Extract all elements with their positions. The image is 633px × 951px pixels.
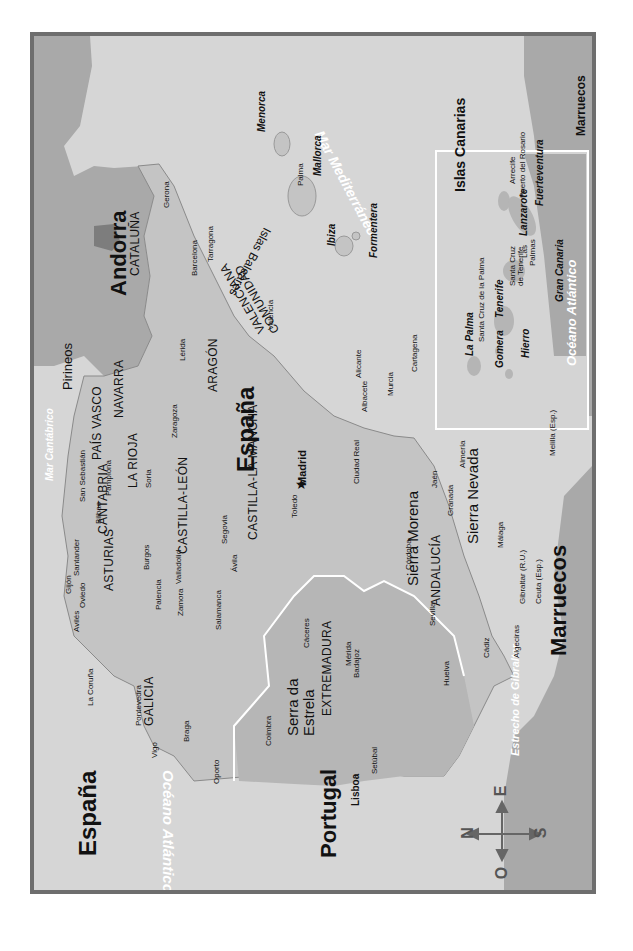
island-label-mallorca: Mallorca — [312, 135, 323, 176]
region-label-asturias: ASTURIAS — [102, 529, 116, 591]
city-label-tarragona: Tarragona — [206, 226, 215, 262]
city-label-puerto-rosario: Puerto del Rosario — [518, 132, 527, 198]
hierro-island — [505, 369, 513, 379]
city-label-granada: Granada — [446, 485, 455, 516]
city-label-zaragoza: Zaragoza — [170, 404, 179, 438]
formentera-island — [352, 232, 360, 240]
city-label-pamplona: Pamplona — [104, 460, 113, 496]
mountain-label-serra-da: Serra da — [284, 678, 301, 736]
inset-label-marruecos: Marruecos — [574, 75, 588, 136]
region-label-extremadura: EXTREMADURA — [320, 621, 334, 716]
sea-label-gibraltar: Estrecho de Gibraltar — [509, 644, 521, 756]
compass-e-label: E — [492, 786, 510, 797]
city-label-segovia: Segovia — [220, 515, 229, 544]
city-label-gijon: Gijón — [64, 575, 73, 594]
city-label-toledo: Toledo — [290, 494, 299, 518]
city-label-setubal: Setúbal — [370, 747, 379, 774]
city-label-caceres: Cáceres — [302, 618, 311, 648]
compass-s-label: S — [532, 828, 550, 839]
city-label-santa-cruz-palma: Santa Cruz de la Palma — [477, 258, 486, 343]
sea-label-atlantico: Océano Atlántico — [160, 770, 177, 893]
island-label-formentera: Formentera — [368, 203, 379, 258]
region-label-galicia: GALICIA — [142, 677, 156, 726]
city-label-melilla: Melilla (Esp.) — [548, 410, 557, 456]
city-label-gibraltar: Gibraltar (R.U.) — [518, 550, 527, 604]
city-label-ciudad-real: Ciudad Real — [352, 440, 361, 484]
island-label-tenerife: Tenerife — [494, 279, 505, 318]
sea-label-cantabrico: Mar Cantábrico — [44, 408, 55, 481]
city-label-cadiz: Cádiz — [482, 638, 491, 658]
city-label-cartagena: Cartagena — [410, 335, 419, 372]
country-label-espana-corner: España — [74, 771, 102, 856]
mountain-label-estrela: Estrela — [300, 689, 317, 736]
island-label-la-palma: La Palma — [464, 312, 475, 356]
country-label-portugal: Portugal — [316, 769, 342, 858]
city-label-oporto: Oporto — [212, 760, 221, 784]
city-label-cordoba: Córdoba — [404, 539, 413, 570]
city-label-albacete: Albacete — [360, 381, 369, 412]
capital-star-icon: ★ — [295, 476, 308, 492]
city-label-almeria: Almería — [458, 440, 467, 468]
city-label-aviles: Avilés — [72, 611, 81, 632]
city-label-la-coruna: La Coruña — [86, 669, 95, 706]
country-label-marruecos: Marruecos — [546, 545, 572, 656]
island-label-hierro: Hierro — [520, 329, 531, 358]
region-label-navarra: NAVARRA — [112, 360, 126, 418]
city-label-ceuta: Ceuta (Esp.) — [534, 559, 543, 604]
city-label-algeciras: Algeciras — [512, 625, 521, 658]
compass-o-label: O — [493, 867, 511, 879]
city-label-lisboa: Lisboa — [350, 774, 361, 806]
city-label-salamanca: Salamanca — [214, 590, 223, 630]
region-label-la-rioja: LA RIOJA — [126, 433, 140, 488]
lanzarote-island — [498, 191, 510, 211]
city-label-lerida: Lérida — [178, 339, 187, 361]
city-label-huelva: Huelva — [442, 661, 451, 686]
city-label-gerona: Gerona — [162, 181, 171, 208]
city-label-coimbra: Coimbra — [264, 716, 273, 746]
ibiza-island — [335, 236, 353, 256]
city-label-sevilla: Sevilla — [428, 602, 437, 626]
city-label-oviedo: Oviedo — [78, 583, 87, 608]
region-label-pais-vasco: PAÍS VASCO — [90, 386, 104, 460]
region-label-castilla-leon: CASTILLA-LEÓN — [176, 457, 190, 554]
island-label-fuerteventura: Fuerteventura — [534, 139, 545, 206]
city-label-valladolid: Valladolid — [174, 550, 183, 584]
city-label-soria: Soria — [144, 469, 153, 488]
compass-n-label: N — [459, 827, 477, 839]
island-label-menorca: Menorca — [256, 91, 267, 132]
city-label-santander: Santander — [72, 539, 81, 576]
city-label-malaga: Málaga — [496, 522, 505, 548]
france-land — [34, 36, 154, 376]
mountain-label-pirineos: Pirineos — [60, 343, 75, 390]
city-label-braga: Braga — [182, 721, 191, 742]
city-label-alicante: Alicante — [354, 350, 363, 378]
city-label-zamora: Zamora — [176, 588, 185, 616]
city-label-san-sebastian: San Sebastián — [78, 450, 87, 502]
city-label-bilbao: Bilbao — [94, 502, 103, 524]
inset-title-canarias: Islas Canarias — [452, 98, 468, 192]
city-label-valencia: Valencia — [266, 300, 275, 330]
city-label-palma: Palma — [296, 163, 305, 186]
city-label-murcia: Murcia — [386, 372, 395, 396]
city-label-palencia: Palencia — [154, 579, 163, 610]
sea-label-atlantico-canarias: Océano Atlántico — [564, 260, 579, 366]
city-label-jaen: Jaén — [430, 471, 439, 488]
city-label-burgos: Burgos — [142, 545, 151, 570]
map-frame: España Portugal Andorra España Marruecos… — [30, 32, 596, 894]
city-label-avila: Ávila — [230, 555, 239, 572]
island-label-ibiza: Ibiza — [326, 224, 337, 246]
city-label-las-palmas-2: Palmas — [528, 239, 537, 266]
city-label-barcelona: Barcelona — [190, 240, 199, 276]
region-label-aragon: ARAGÓN — [206, 338, 220, 392]
menorca-island — [274, 132, 290, 156]
island-label-gomera: Gomera — [494, 330, 505, 368]
city-label-pontevedra: Pontevedra — [134, 685, 143, 726]
region-label-cataluna: CATALUÑA — [128, 211, 142, 276]
city-label-badajoz: Badajoz — [352, 649, 361, 678]
la-palma-island — [467, 356, 481, 376]
city-label-vigo: Vigo — [150, 742, 159, 758]
region-label-castilla-la-mancha: CASTILLA-LA MANCHA — [246, 405, 260, 540]
region-label-andalucia: ANDALUCÍA — [429, 535, 443, 606]
city-label-arrecife: Arrecife — [508, 156, 517, 184]
